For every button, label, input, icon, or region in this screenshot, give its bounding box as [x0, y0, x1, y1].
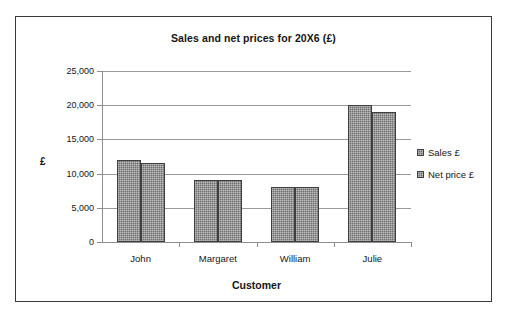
- bar[interactable]: [141, 163, 165, 242]
- x-axis-tick: [257, 242, 258, 247]
- bar[interactable]: [372, 112, 396, 242]
- x-axis-tick: [411, 242, 412, 247]
- y-axis-tick-label: 20,000: [32, 100, 94, 110]
- bar-group: [194, 71, 242, 242]
- legend-item-label: Net price £: [428, 169, 474, 180]
- x-axis-title: Customer: [102, 279, 411, 291]
- legend-item-label: Sales £: [428, 147, 460, 158]
- x-axis-tick-label: John: [130, 253, 151, 264]
- y-axis-tick: [97, 174, 103, 175]
- x-axis-tick: [179, 242, 180, 247]
- chart-title: Sales and net prices for 20X6 (£): [16, 32, 491, 44]
- legend-item[interactable]: Net price £: [417, 169, 474, 180]
- x-axis-tick: [334, 242, 335, 247]
- bar[interactable]: [348, 105, 372, 242]
- bar-group: [348, 71, 396, 242]
- y-axis-tick-label: 15,000: [32, 134, 94, 144]
- plot-area: [102, 71, 411, 242]
- legend-square-marker-icon: [417, 149, 424, 156]
- y-axis-tick: [97, 208, 103, 209]
- y-axis-tick-labels: 05,00010,00015,00020,00025,000: [24, 71, 94, 242]
- bar[interactable]: [271, 187, 295, 242]
- bar[interactable]: [194, 180, 218, 242]
- y-axis-tick: [97, 71, 103, 72]
- x-axis-tick-label: Margaret: [199, 253, 237, 264]
- bar-group: [117, 71, 165, 242]
- bar[interactable]: [117, 160, 141, 242]
- x-axis-tick-label: William: [280, 253, 311, 264]
- y-axis-tick: [97, 242, 103, 243]
- bar[interactable]: [295, 187, 319, 242]
- legend-square-marker-icon: [417, 171, 424, 178]
- bar[interactable]: [218, 180, 242, 242]
- y-axis-tick-label: 25,000: [32, 66, 94, 76]
- chart-container: Sales and net prices for 20X6 (£) £ 05,0…: [15, 16, 492, 302]
- y-axis-tick: [97, 139, 103, 140]
- legend-item[interactable]: Sales £: [417, 147, 474, 158]
- y-axis-tick-label: 10,000: [32, 169, 94, 179]
- y-axis-tick-label: 0: [32, 237, 94, 247]
- chart-legend: Sales £Net price £: [417, 147, 474, 191]
- y-axis-tick-label: 5,000: [32, 203, 94, 213]
- x-axis-tick-label: Julie: [363, 253, 383, 264]
- bar-group: [271, 71, 319, 242]
- y-axis-tick: [97, 105, 103, 106]
